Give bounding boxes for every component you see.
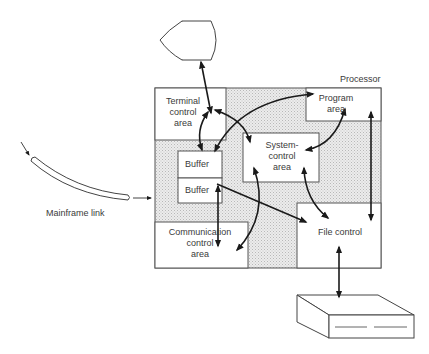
program-area-line1: Program	[311, 93, 361, 104]
terminal-control-area-label: Terminal control area	[158, 96, 208, 129]
terminal-display-icon	[160, 21, 216, 60]
system-control-line1: System-	[254, 140, 310, 151]
mainframe-link-label: Mainframe link	[46, 208, 105, 219]
terminal-control-line1: Terminal	[158, 96, 208, 107]
program-area-line2: area	[311, 104, 361, 115]
program-area-label: Program area	[311, 93, 361, 115]
terminal-control-line3: area	[158, 118, 208, 129]
terminal-control-line2: control	[158, 107, 208, 118]
mainframe-link-cable-icon	[21, 142, 151, 200]
communication-control-line3: area	[158, 249, 242, 260]
communication-control-line1: Communication	[158, 227, 242, 238]
processor-label: Processor	[340, 74, 381, 85]
diagram-canvas	[0, 0, 429, 354]
system-control-area-label: System- control area	[254, 140, 310, 173]
buffer-bottom-label: Buffer	[180, 185, 214, 196]
system-control-line3: area	[254, 162, 310, 173]
disk-storage-icon	[297, 295, 414, 338]
buffer-top-label: Buffer	[180, 159, 214, 170]
system-control-line2: control	[254, 151, 310, 162]
communication-control-area-label: Communication control area	[158, 227, 242, 260]
communication-control-line2: control	[158, 238, 242, 249]
file-control-label: File control	[310, 227, 370, 238]
